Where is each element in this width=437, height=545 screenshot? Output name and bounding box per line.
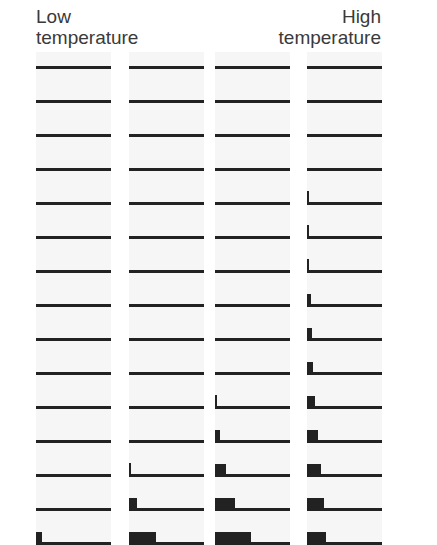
low-label-line1: Low: [36, 6, 138, 27]
histogram-row: [129, 443, 204, 477]
histogram-row: [215, 103, 290, 137]
histogram-bar: [307, 498, 324, 511]
histogram-row: [36, 205, 111, 239]
histogram-row: [307, 69, 382, 103]
histogram-bar: [307, 532, 326, 545]
histogram-row: [215, 69, 290, 103]
histogram-bar: [307, 362, 313, 375]
histogram-row: [215, 171, 290, 205]
histogram-column-2: [129, 52, 204, 544]
histogram-row: [36, 409, 111, 443]
histogram-row: [307, 171, 382, 205]
histogram-row: [129, 103, 204, 137]
histogram-row: [129, 341, 204, 375]
histogram-row: [215, 307, 290, 341]
histogram-bar: [307, 328, 312, 341]
histogram-row: [129, 69, 204, 103]
histogram-bar: [129, 498, 137, 511]
histogram-row: [36, 443, 111, 477]
histogram-bar: [307, 225, 309, 239]
histogram-row: [307, 477, 382, 511]
histogram-row: [215, 137, 290, 171]
histogram-row: [36, 477, 111, 511]
histogram-row: [36, 341, 111, 375]
histogram-row: [129, 137, 204, 171]
histogram-row: [129, 273, 204, 307]
histogram-row: [307, 239, 382, 273]
histogram-row: [307, 35, 382, 69]
histogram-bar: [129, 463, 131, 477]
histogram-row: [307, 273, 382, 307]
histogram-row: [129, 239, 204, 273]
histogram-row: [36, 511, 111, 545]
histogram-row: [215, 375, 290, 409]
histogram-row: [307, 443, 382, 477]
histogram-row: [307, 375, 382, 409]
histogram-row: [307, 307, 382, 341]
histogram-row: [129, 375, 204, 409]
histogram-bar: [307, 294, 311, 307]
histogram-bar: [307, 396, 315, 409]
histogram-row: [307, 205, 382, 239]
histogram-row: [129, 205, 204, 239]
histogram-bar: [215, 430, 220, 443]
histogram-row: [307, 511, 382, 545]
histogram-row: [36, 375, 111, 409]
histogram-row: [129, 409, 204, 443]
histogram-bar: [307, 191, 309, 205]
histogram-bar: [307, 259, 309, 273]
histogram-bar: [129, 532, 156, 545]
histogram-row: [215, 477, 290, 511]
histogram-bar: [215, 395, 217, 409]
histogram-bar: [215, 464, 226, 477]
histogram-row: [307, 341, 382, 375]
histogram-row: [215, 511, 290, 545]
histogram-bar: [215, 532, 251, 545]
histogram-row: [129, 35, 204, 69]
histogram-row: [129, 307, 204, 341]
histogram-row: [36, 273, 111, 307]
histogram-row: [307, 137, 382, 171]
histogram-row: [215, 409, 290, 443]
histogram-column-4: [307, 52, 382, 544]
histogram-row: [215, 443, 290, 477]
histogram-row: [36, 137, 111, 171]
histogram-bar: [215, 498, 235, 511]
histogram-row: [129, 477, 204, 511]
histogram-row: [307, 103, 382, 137]
histogram-bar: [307, 430, 318, 443]
histogram-row: [129, 511, 204, 545]
histogram-row: [215, 205, 290, 239]
high-label-line1: High: [279, 6, 381, 27]
histogram-row: [215, 35, 290, 69]
histogram-row: [36, 35, 111, 69]
histogram-column-1: [36, 52, 111, 544]
histogram-row: [129, 171, 204, 205]
histogram-row: [307, 409, 382, 443]
histogram-row: [36, 103, 111, 137]
histogram-row: [36, 239, 111, 273]
histogram-row: [215, 239, 290, 273]
baseline-axis: [36, 542, 111, 545]
histogram-row: [36, 69, 111, 103]
histogram-row: [36, 307, 111, 341]
histogram-bar: [36, 532, 42, 545]
histogram-column-3: [215, 52, 290, 544]
histogram-bar: [307, 464, 321, 477]
histogram-row: [215, 341, 290, 375]
histogram-row: [36, 171, 111, 205]
histogram-row: [215, 273, 290, 307]
